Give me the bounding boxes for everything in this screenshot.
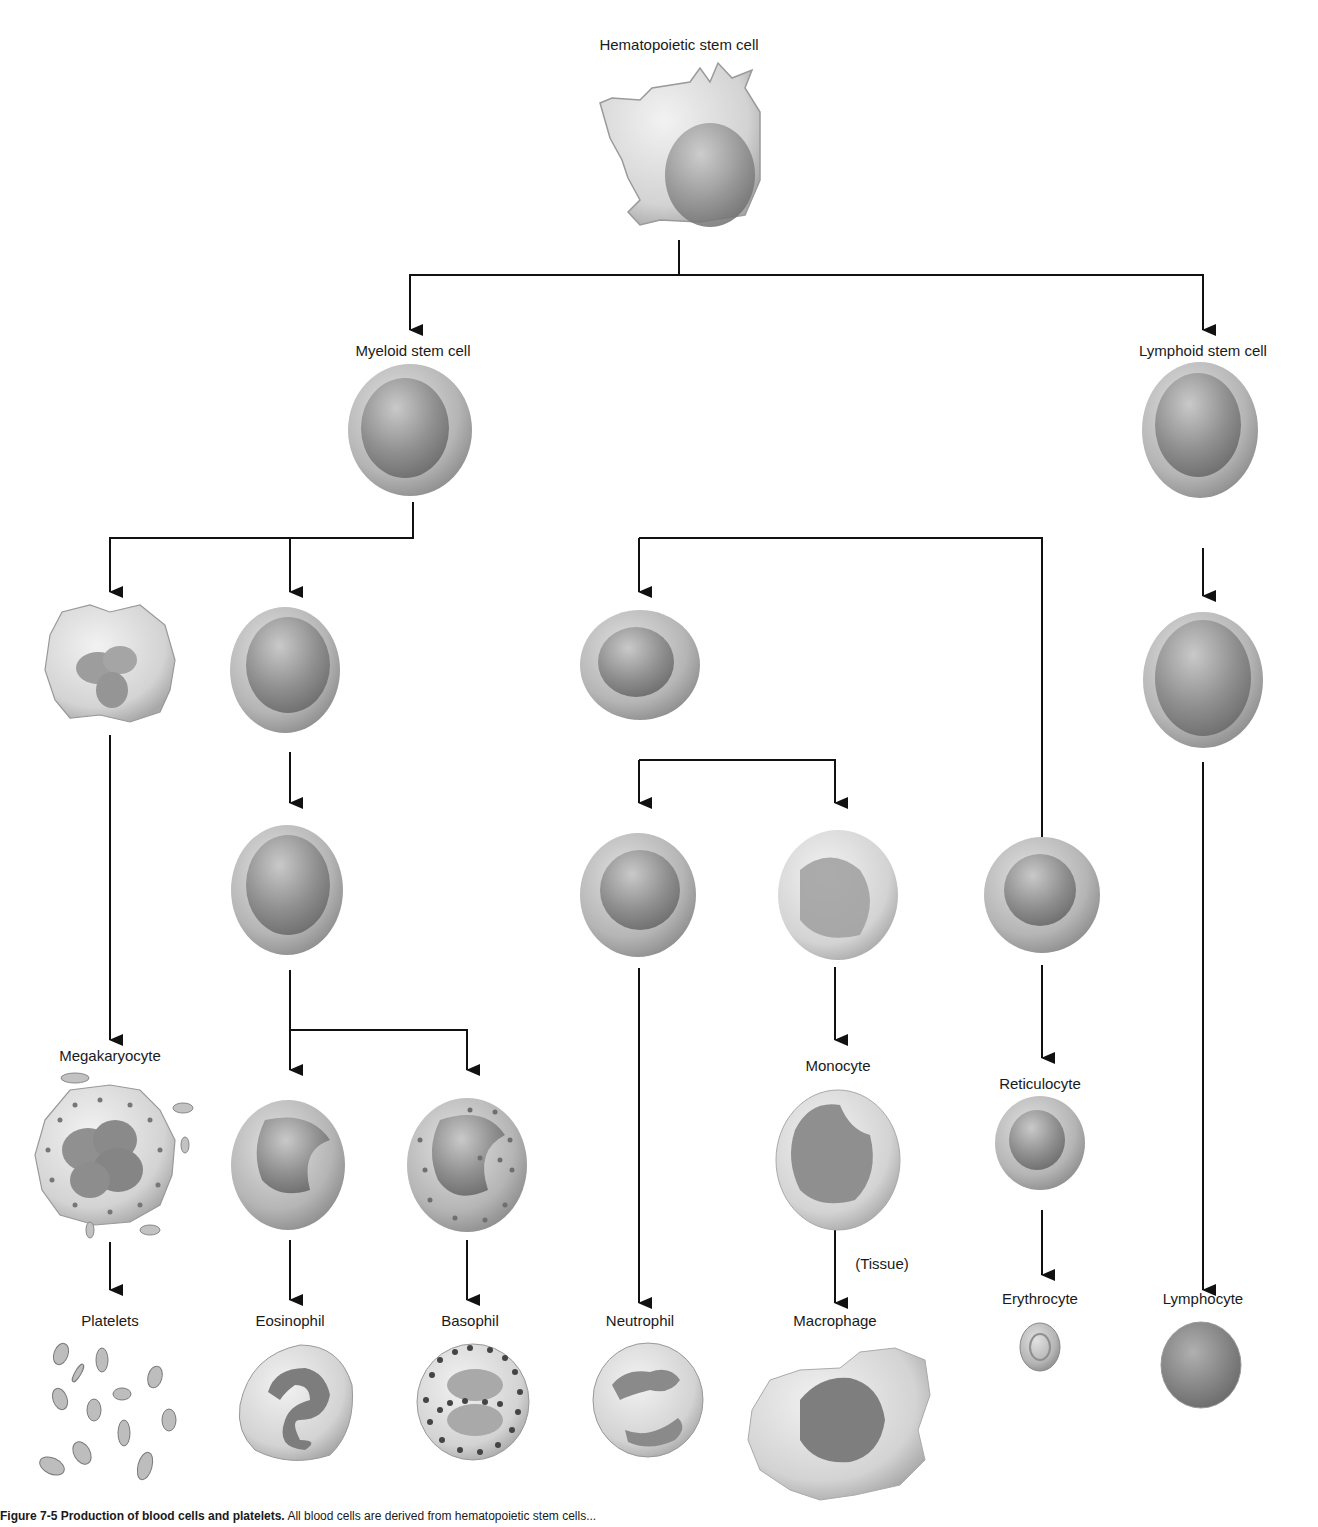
macrophage (748, 1348, 930, 1500)
neutrophil (593, 1343, 703, 1457)
basophilic-myelocyte (407, 1098, 527, 1232)
monocyte (776, 1090, 900, 1230)
lineage-diagram (0, 0, 1318, 1527)
lymphoid-stem-cell (1142, 362, 1258, 498)
label-tissue: (Tissue) (855, 1255, 909, 1272)
hematopoietic-stem-cell (600, 63, 760, 227)
label-erythrocyte: Erythrocyte (1002, 1290, 1078, 1307)
label-megakaryocyte: Megakaryocyte (59, 1047, 161, 1064)
megakaryocyte (35, 1073, 193, 1238)
label-myeloid-stem-cell: Myeloid stem cell (355, 342, 470, 359)
lymphoblast (1143, 612, 1263, 748)
platelets (37, 1341, 176, 1481)
megakaryoblast (45, 605, 175, 722)
myelomonocytic-progenitor (580, 610, 700, 720)
myeloblast (230, 607, 340, 733)
erythroblast (984, 837, 1100, 953)
label-reticulocyte: Reticulocyte (999, 1075, 1081, 1092)
eosinophilic-myelocyte (231, 1100, 345, 1230)
label-lymphocyte: Lymphocyte (1163, 1290, 1243, 1307)
label-neutrophil: Neutrophil (606, 1312, 674, 1329)
label-basophil: Basophil (441, 1312, 499, 1329)
figure-caption-text: All blood cells are derived from hematop… (287, 1509, 596, 1523)
label-macrophage: Macrophage (793, 1312, 876, 1329)
monoblast (778, 830, 898, 960)
label-hematopoietic-stem-cell: Hematopoietic stem cell (599, 36, 758, 53)
label-platelets: Platelets (81, 1312, 139, 1329)
myeloid-stem-cell (348, 364, 472, 496)
promyelocyte (231, 825, 343, 955)
eosinophil (239, 1345, 352, 1460)
label-eosinophil: Eosinophil (255, 1312, 324, 1329)
neutrophil-precursor (580, 833, 696, 957)
erythrocyte (1020, 1323, 1060, 1371)
label-monocyte: Monocyte (805, 1057, 870, 1074)
basophil (417, 1344, 529, 1460)
reticulocyte (995, 1096, 1085, 1190)
figure-caption: Figure 7-5 Production of blood cells and… (0, 1509, 596, 1523)
lymphocyte (1161, 1322, 1241, 1408)
figure-caption-title: Figure 7-5 Production of blood cells and… (0, 1509, 285, 1523)
label-lymphoid-stem-cell: Lymphoid stem cell (1139, 342, 1267, 359)
